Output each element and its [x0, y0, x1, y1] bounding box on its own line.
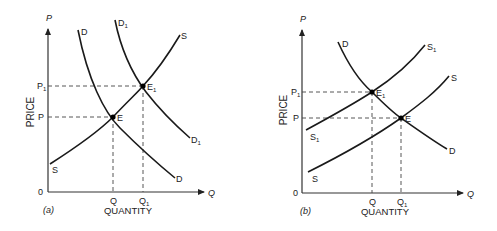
panel-caption: (b): [300, 206, 311, 216]
s-label-bottom: S: [312, 174, 318, 184]
quantity-axis-title: QUANTITY: [361, 206, 410, 217]
p-tick: P: [293, 113, 299, 123]
e1-label: E1: [147, 82, 157, 93]
equilibrium-point-e: [110, 114, 115, 119]
supply-demand-diagrams: P Q 0 PRICE QUANTITY (a) P1 P Q Q1 D D D…: [0, 0, 497, 231]
equilibrium-point-e1: [140, 83, 145, 88]
s1-label-bottom: S1: [310, 132, 320, 143]
price-axis-symbol: P: [300, 14, 306, 24]
origin-label: 0: [293, 188, 298, 198]
s-label-top: S: [181, 31, 187, 41]
p-tick: P: [38, 112, 44, 122]
d1-label-bottom: D1: [191, 135, 202, 146]
equilibrium-point-e1: [369, 89, 374, 94]
price-axis-symbol: P: [46, 13, 52, 23]
quantity-axis-symbol: Q: [208, 188, 215, 198]
d-label-bottom: D: [449, 146, 456, 156]
s-label-bottom: S: [52, 165, 58, 175]
q-tick: Q: [110, 196, 117, 206]
panel-b: P Q 0 PRICE QUANTITY (b) P1 P Q Q1 D D S…: [278, 14, 474, 217]
s-label-top: S: [451, 73, 457, 83]
origin-label: 0: [38, 187, 43, 197]
e-label: E: [405, 114, 411, 124]
d-label-top: D: [342, 39, 349, 49]
e1-label: E1: [376, 88, 386, 99]
supply-curve-s: [50, 35, 180, 164]
d-label-bottom: D: [176, 174, 183, 184]
d-label-top: D: [81, 27, 88, 37]
s1-label-top: S1: [427, 42, 437, 53]
p1-tick: P1: [37, 81, 47, 92]
price-axis-title: PRICE: [278, 94, 289, 125]
price-axis-title: PRICE: [25, 96, 36, 127]
quantity-axis-symbol: Q: [467, 189, 474, 199]
p1-tick: P1: [291, 87, 301, 98]
equilibrium-point-e: [398, 115, 403, 120]
d1-label-top: D1: [118, 18, 129, 29]
e-label: E: [117, 113, 123, 123]
q-tick: Q: [369, 197, 376, 207]
q1-tick: Q1: [139, 196, 150, 207]
q1-tick: Q1: [397, 197, 408, 208]
panel-caption: (a): [43, 205, 54, 215]
panel-a: P Q 0 PRICE QUANTITY (a) P1 P Q Q1 D D D…: [25, 13, 215, 216]
